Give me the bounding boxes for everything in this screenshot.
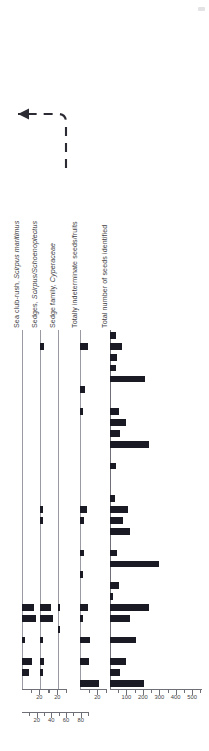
ruler-line [22,712,88,713]
data-bar [40,658,44,665]
data-bar [80,604,88,611]
ruler-tick-minor [106,689,107,693]
registration-speck [198,7,205,11]
data-bar [40,604,51,611]
ruler-line [40,689,66,690]
scale-ruler-total-seeds: 100200300400500 [110,689,202,701]
data-bar [80,386,85,393]
column-axis-line [58,330,59,689]
ruler-tick-minor [59,712,60,716]
data-bar [110,604,149,611]
data-bar [80,680,99,687]
data-bar [80,343,88,350]
scale-ruler-sedges: 20 [40,689,66,701]
data-bar [80,517,84,524]
data-bar [110,441,149,448]
ruler-tick-minor [66,689,67,693]
data-bar [110,430,120,437]
column-title-italic: Scirpus maritimus [13,221,21,279]
ruler-tick-label: 60 [63,717,69,723]
ruler-tick-label: 20 [33,717,39,723]
data-bar [22,658,32,665]
column-title: Sedge family, Cyperaceae [49,243,58,330]
data-bar [40,669,43,676]
data-bar [22,604,34,611]
column-title-italic: Cyperaceae [49,243,57,282]
data-bar [80,550,84,557]
data-bar [110,419,126,426]
ruler-tick-label: 80 [77,717,83,723]
data-bar [110,365,116,372]
ruler-tick-label: 20 [54,694,60,700]
column-title-plain: Sedge family, [49,282,57,328]
data-bar [110,495,115,502]
data-bar [80,506,87,513]
data-bar [80,408,83,415]
data-bar [110,463,116,470]
data-bar [80,571,83,578]
data-bar [80,615,83,622]
figure-page: Sea club-rush, Scirpus maritimusSedges, … [0,0,209,751]
ruler-tick-minor [88,712,89,716]
ruler-tick-minor [200,689,201,693]
data-bar [110,550,117,557]
data-bar [110,680,144,687]
ruler-tick-minor [29,712,30,716]
data-bar [58,626,60,633]
data-bar [110,376,145,383]
data-bar [110,517,123,524]
ruler-tick-minor [31,689,32,693]
data-bar [40,506,43,513]
ruler-tick-label: 40 [48,717,54,723]
ruler-tick-label: 400 [171,694,181,700]
ruler-tick-minor [73,712,74,716]
data-bar [110,354,117,361]
ruler-line [80,689,106,690]
data-bar [110,593,113,600]
column-axis-line [22,330,23,689]
column-title: Total number of seeds identified [101,225,110,330]
ruler-tick-minor [118,689,119,693]
annotation-leader-arrow [4,96,74,168]
data-bar [110,343,122,350]
column-title-italic: Scirpus/Schoenoplectus [31,221,39,299]
scale-ruler-cyperaceae: 20406080 [22,712,88,724]
ruler-tick-label: 200 [138,694,148,700]
data-bar [40,343,44,350]
data-bar [110,582,119,589]
data-bar [110,506,128,513]
column-title-plain: Sedges, [31,299,39,328]
ruler-tick-minor [44,712,45,716]
column-title: Totally indeterminate seeds/fruits [71,221,80,330]
data-bar [80,637,90,644]
data-bar [110,332,116,339]
ruler-tick-label: 20 [94,694,100,700]
ruler-tick-minor [135,689,136,693]
ruler-tick-minor [89,689,90,693]
data-bar [110,658,126,665]
data-bar [22,615,36,622]
scale-ruler-indeterminate: 20 [80,689,106,701]
data-bar [40,637,43,644]
ruler-tick-label: 500 [187,694,197,700]
column-title: Sea club-rush, Scirpus maritimus [13,221,22,330]
ruler-tick-minor [49,689,50,693]
data-bar [110,615,130,622]
ruler-tick-minor [168,689,169,693]
data-bar [110,408,119,415]
data-bar [22,669,29,676]
ruler-tick-label: 100 [122,694,132,700]
data-bar [58,604,60,611]
data-bar [22,637,25,644]
data-bar [80,658,89,665]
arrow-icon [4,96,74,168]
column-title: Sedges, Scirpus/Schoenoplectus [31,221,40,330]
data-bar [110,637,136,644]
data-bar [40,517,43,524]
seed-diagram-plate: Sea club-rush, Scirpus maritimusSedges, … [0,0,209,751]
ruler-tick-minor [184,689,185,693]
ruler-tick-label: 300 [154,694,164,700]
ruler-line [110,689,202,690]
ruler-tick-minor [151,689,152,693]
data-bar [110,561,159,568]
